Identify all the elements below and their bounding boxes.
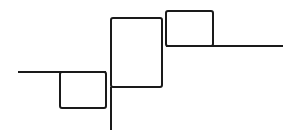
- box-low: [60, 72, 106, 108]
- box-tall: [111, 18, 162, 87]
- box-high: [166, 11, 213, 46]
- step-box-diagram: [0, 0, 298, 138]
